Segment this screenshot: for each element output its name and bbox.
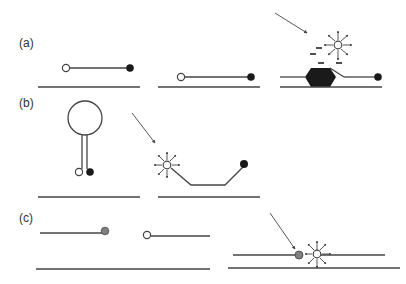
protein-hexagon-icon: [305, 68, 336, 87]
fluorophore-icon: [75, 168, 82, 175]
fluorophore-icon: [163, 161, 171, 169]
acceptor-icon: [101, 227, 109, 235]
quencher-icon: [374, 73, 382, 81]
charge-marks-icon: [310, 48, 342, 63]
excitation-arrow-icon: [270, 213, 295, 249]
acceptor-icon: [295, 251, 303, 259]
panel-label-b: (b): [19, 96, 34, 110]
quencher-icon: [247, 73, 255, 81]
panel-a-probe-bound: [158, 73, 260, 87]
panel-label-a: (a): [19, 36, 34, 50]
diagram-canvas: (a): [0, 0, 406, 284]
fluorophore-icon: [177, 73, 184, 80]
quencher-icon: [126, 64, 134, 72]
panel-c-separate-probes: [36, 227, 210, 269]
excitation-arrow-icon: [132, 113, 155, 143]
panel-c-adjacent-probes: [228, 213, 400, 268]
fluorophore-icon: [143, 231, 150, 238]
fluorophore-icon: [62, 64, 69, 71]
panel-label-c: (c): [19, 211, 33, 225]
panel-a-protein-binding: [275, 13, 382, 87]
panel-b-hairpin: [38, 101, 140, 197]
excitation-arrow-icon: [275, 13, 307, 33]
panel-b-open-probe: [132, 113, 260, 197]
hairpin-loop: [68, 101, 102, 135]
fluorophore-icon: [334, 41, 342, 49]
quencher-icon: [86, 168, 94, 176]
quencher-icon: [240, 160, 248, 168]
panel-a-probe-free: [38, 64, 140, 87]
fluorophore-icon: [313, 250, 321, 258]
